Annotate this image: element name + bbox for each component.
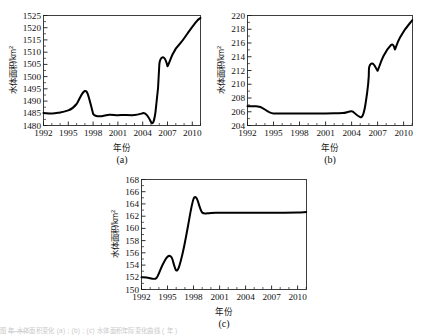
y-tick-label: 212: [231, 66, 245, 76]
y-tick-label: 220: [231, 11, 245, 21]
chart-panel-a: 1480 1485 1490 1495 1500 1505 1510 1515 …: [2, 4, 210, 166]
x-tick-label: 1992: [34, 128, 53, 138]
y-tick-label: 1520: [23, 23, 42, 33]
y-tick-label: 164: [125, 199, 139, 209]
x-tick-label: 1992: [132, 292, 151, 302]
x-tick-label: 2007: [368, 128, 387, 138]
chart-b-y-tick-labels: 204 206 208 210 212 214 216 218 220: [231, 11, 245, 131]
chart-c-x-tick-labels: 1992 1995 1998 2001 2004 2007 2010: [132, 292, 307, 302]
y-tick-label: 1525: [23, 11, 42, 21]
y-tick-label: 162: [125, 211, 139, 221]
chart-panel-b: 204 206 208 210 212 214 216 218 220: [214, 4, 422, 166]
y-tick-label: 156: [125, 248, 139, 258]
chart-b-x-axis-title: 年份: [321, 142, 339, 153]
x-tick-label: 1998: [84, 128, 103, 138]
y-tick-label: 210: [231, 79, 245, 89]
figure-root: 1480 1485 1490 1495 1500 1505 1510 1515 …: [0, 0, 424, 335]
x-tick-label: 2010: [288, 292, 307, 302]
chart-a-svg: 1480 1485 1490 1495 1500 1505 1510 1515 …: [2, 4, 210, 166]
y-tick-label: 1495: [23, 84, 42, 94]
x-tick-label: 2010: [394, 128, 413, 138]
chart-a-x-axis-title: 年份: [113, 142, 131, 153]
chart-a-plot-frame: [44, 16, 201, 126]
x-tick-label: 2010: [183, 128, 202, 138]
y-tick-label: 158: [125, 236, 139, 246]
y-tick-label: 1510: [23, 47, 42, 57]
chart-b-panel-letter: (b): [324, 154, 336, 166]
y-tick-label: 208: [231, 93, 245, 103]
chart-a-y-tick-labels: 1480 1485 1490 1495 1500 1505 1510 1515 …: [23, 11, 42, 131]
y-tick-label: 216: [231, 38, 245, 48]
x-tick-label: 2007: [262, 292, 281, 302]
chart-b-plot-frame: [248, 16, 413, 126]
y-tick-label: 1500: [23, 72, 42, 82]
chart-b-x-tick-labels: 1992 1995 1998 2001 2004 2007 2010: [238, 128, 413, 138]
x-tick-label: 2001: [316, 128, 335, 138]
y-tick-label: 1515: [23, 35, 42, 45]
chart-c-plot-frame: [142, 180, 307, 290]
y-tick-label: 1505: [23, 59, 42, 69]
y-tick-label: 152: [125, 272, 139, 282]
x-tick-label: 1998: [184, 292, 203, 302]
x-tick-label: 2001: [109, 128, 128, 138]
y-tick-label: 1490: [23, 96, 42, 106]
y-tick-label: 1485: [23, 108, 42, 118]
y-tick-label: 168: [125, 175, 139, 185]
y-tick-label: 206: [231, 107, 245, 117]
figure-bottom-caption: 图 年 水体面积变化 (a) ; (b) ; (c) 水体面积年际变化曲线 ( …: [0, 326, 424, 335]
x-tick-label: 2001: [210, 292, 229, 302]
x-tick-label: 1998: [290, 128, 309, 138]
y-tick-label: 160: [125, 223, 139, 233]
chart-a-panel-letter: (a): [116, 154, 127, 166]
x-tick-label: 2007: [158, 128, 177, 138]
y-tick-label: 218: [231, 24, 245, 34]
x-tick-label: 2004: [236, 292, 255, 302]
x-tick-label: 1992: [238, 128, 257, 138]
chart-c-svg: 150 152 154 156 158 160 162 164 166 168: [108, 168, 316, 330]
y-tick-label: 154: [125, 260, 139, 270]
chart-c-x-axis-title: 年份: [215, 306, 233, 317]
x-tick-label: 1995: [158, 292, 177, 302]
x-tick-label: 2004: [342, 128, 361, 138]
y-tick-label: 166: [125, 187, 139, 197]
chart-b-y-axis-title: 水体面积/km2: [216, 45, 226, 95]
chart-panel-c: 150 152 154 156 158 160 162 164 166 168: [108, 168, 316, 330]
chart-c-y-tick-labels: 150 152 154 156 158 160 162 164 166 168: [125, 175, 139, 295]
chart-a-y-axis-title: 水体面积/km2: [8, 45, 18, 95]
chart-b-svg: 204 206 208 210 212 214 216 218 220: [214, 4, 422, 166]
x-tick-label: 1995: [264, 128, 283, 138]
x-tick-label: 2004: [134, 128, 153, 138]
y-tick-label: 214: [231, 52, 245, 62]
chart-a-x-tick-labels: 1992 1995 1998 2001 2004 2007 2010: [34, 128, 202, 138]
chart-c-y-axis-title: 水体面积/km2: [110, 209, 120, 259]
x-tick-label: 1995: [59, 128, 78, 138]
